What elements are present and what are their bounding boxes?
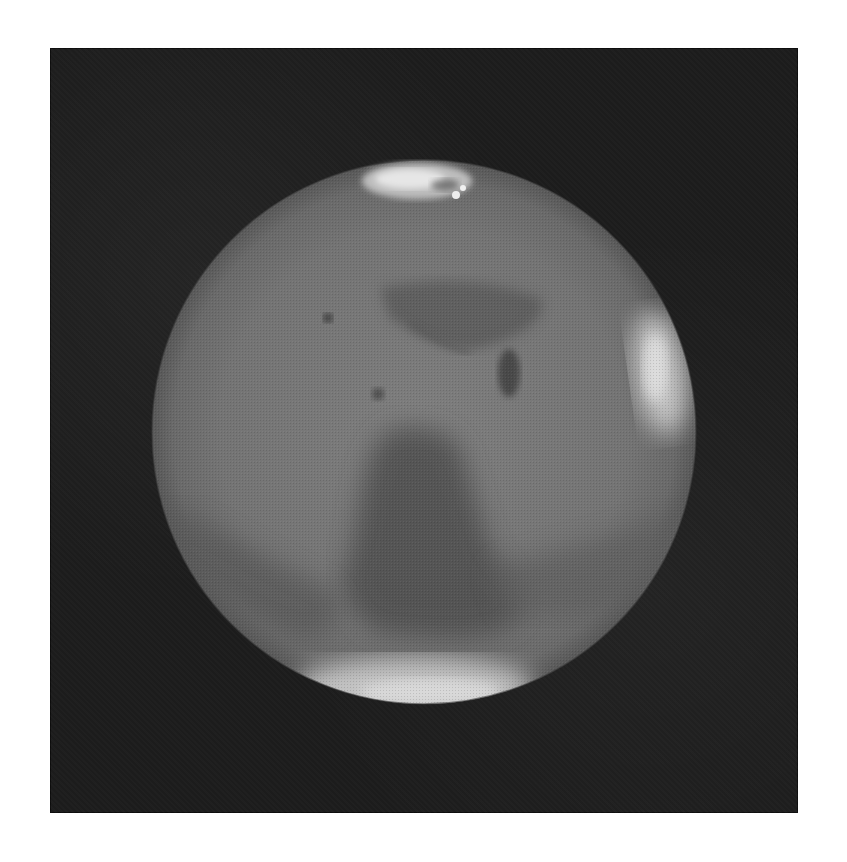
- mars-planet: [50, 48, 798, 813]
- image-frame: [50, 48, 798, 813]
- north-polar-cap: [362, 163, 472, 199]
